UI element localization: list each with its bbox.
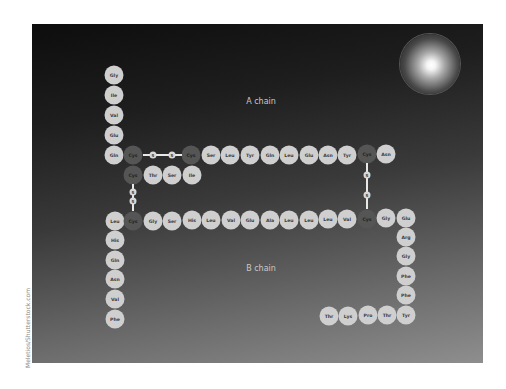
b_chain-residue-gly: Gly — [377, 209, 396, 228]
b_chain-residue-leu: Leu — [106, 212, 125, 231]
glowing-sphere-icon — [400, 34, 460, 94]
a_chain-residue-val: Val — [105, 106, 124, 125]
b_chain-residue-tyr: Tyr — [397, 306, 416, 325]
a_chain-residue-glu: Glu — [105, 126, 124, 145]
a_chain-residue-cys: Cys — [182, 146, 201, 165]
disulfide-bond-line — [366, 163, 368, 209]
b_chain-residue-cys: Cys — [358, 210, 377, 229]
sulfur-atom: S — [130, 198, 137, 205]
b_chain-residue-ala: Ala — [261, 211, 280, 230]
a-chain-label: A chain — [246, 97, 276, 106]
b_chain-residue-phe: Phe — [397, 286, 416, 305]
a_chain-residue-ser: Ser — [163, 166, 182, 185]
b_chain-residue-his: His — [183, 211, 202, 230]
a_chain-residue-ile: Ile — [183, 166, 202, 185]
b_chain-residue-lys: Lys — [339, 307, 358, 326]
b_chain-residue-val: Val — [106, 290, 125, 309]
b_chain-residue-arg: Arg — [397, 228, 416, 247]
b_chain-residue-thr: Thr — [320, 307, 339, 326]
b_chain-residue-cys: Cys — [124, 212, 143, 231]
sulfur-atom: S — [364, 192, 371, 199]
b_chain-residue-val: Val — [338, 210, 357, 229]
a_chain-residue-leu: Leu — [280, 146, 299, 165]
b_chain-residue-thr: Thr — [378, 306, 397, 325]
b_chain-residue-his: His — [106, 231, 125, 250]
a_chain-residue-gly: Gly — [105, 66, 124, 85]
a_chain-residue-gln: Gln — [105, 146, 124, 165]
b_chain-residue-glu: Glu — [241, 211, 260, 230]
b_chain-residue-leu: Leu — [319, 210, 338, 229]
b-chain-label: B chain — [246, 264, 276, 273]
b_chain-residue-phe: Phe — [397, 267, 416, 286]
b_chain-residue-leu: Leu — [280, 211, 299, 230]
a_chain-residue-cys: Cys — [358, 145, 377, 164]
b_chain-residue-phe: Phe — [106, 310, 125, 329]
a_chain-residue-ile: Ile — [105, 86, 124, 105]
a_chain-residue-thr: Thr — [144, 166, 163, 185]
sulfur-atom: S — [150, 152, 157, 159]
sulfur-atom: S — [364, 172, 371, 179]
b_chain-residue-glu: Glu — [397, 209, 416, 228]
a_chain-residue-asn: Asn — [377, 145, 396, 164]
a_chain-residue-asn: Asn — [319, 146, 338, 165]
b_chain-residue-leu: Leu — [202, 211, 221, 230]
a_chain-residue-gln: Gln — [261, 146, 280, 165]
b_chain-residue-gly: Gly — [144, 212, 163, 231]
b_chain-residue-gly: Gly — [397, 247, 416, 266]
watermark-credit: Meletios/Shutterstock.com — [24, 288, 31, 368]
a_chain-residue-glu: Glu — [300, 146, 319, 165]
b_chain-residue-pro: Pro — [359, 306, 378, 325]
b_chain-residue-ser: Ser — [163, 212, 182, 231]
a_chain-residue-cys: Cys — [124, 166, 143, 185]
b_chain-residue-val: Val — [222, 211, 241, 230]
a_chain-residue-tyr: Tyr — [338, 146, 357, 165]
b_chain-residue-leu: Leu — [300, 211, 319, 230]
sulfur-atom: S — [130, 189, 137, 196]
b_chain-residue-asn: Asn — [106, 270, 125, 289]
sulfur-atom: S — [169, 152, 176, 159]
a_chain-residue-leu: Leu — [221, 146, 240, 165]
b_chain-residue-gln: Gln — [106, 251, 125, 270]
a_chain-residue-ser: Ser — [202, 146, 221, 165]
a_chain-residue-cys: Cys — [124, 146, 143, 165]
a_chain-residue-tyr: Tyr — [241, 146, 260, 165]
